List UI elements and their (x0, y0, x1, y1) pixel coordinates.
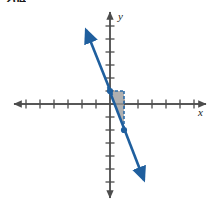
x-axis-label: x (197, 106, 203, 118)
line-upper-arrow (86, 30, 112, 95)
plotted-line (86, 30, 144, 180)
y-axis (106, 12, 115, 198)
coordinate-plane: x y (0, 0, 220, 207)
point-y-intercept (107, 88, 113, 94)
point-second (121, 127, 127, 133)
graph-screenshot: 264 (0, 0, 220, 207)
y-axis-label: y (117, 10, 123, 22)
